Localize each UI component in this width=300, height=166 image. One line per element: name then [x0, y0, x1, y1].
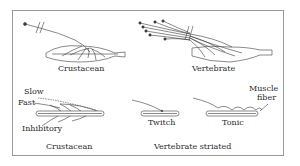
label-muscle-fiber-line2: fiber: [257, 93, 276, 102]
label-muscle-fiber-line1: Muscle: [249, 84, 278, 93]
label-slow-axon: Slow: [24, 87, 44, 96]
label-fast-axon: Fast: [18, 98, 35, 107]
vertebrate-muscle-illustration: [139, 20, 272, 62]
crustacean-muscle-illustration: [24, 22, 126, 62]
innervation-diagram: [0, 0, 300, 166]
caption-top-left: Crustacean: [58, 64, 104, 73]
caption-bottom-right: Vertebrate striated: [154, 142, 231, 151]
caption-top-right: Vertebrate: [192, 64, 235, 73]
label-inhibitory-axon: Inhibitory: [22, 124, 62, 133]
crustacean-fiber-illustration: [34, 98, 104, 126]
label-tonic: Tonic: [222, 118, 244, 127]
twitch-fiber-illustration: [132, 100, 179, 116]
label-twitch: Twitch: [148, 118, 175, 127]
caption-bottom-left: Crustacean: [46, 142, 92, 151]
